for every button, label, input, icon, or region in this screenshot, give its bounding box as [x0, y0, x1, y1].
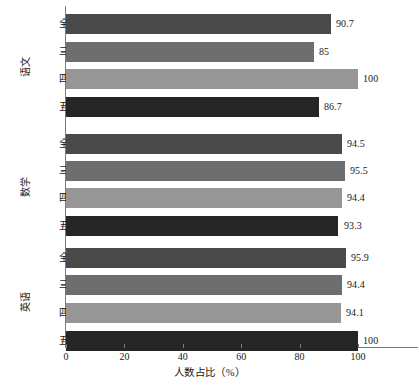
bar-row: 五年级 93.3 — [0, 216, 419, 236]
bar-row: 三年级 94.4 — [0, 275, 419, 295]
bar-row: 四年级 94.4 — [0, 188, 419, 208]
bar-value-label: 94.4 — [347, 280, 365, 290]
bar-yingyu-grade4 — [66, 303, 341, 323]
bar-row: 三年级 95.5 — [0, 161, 419, 181]
bar-row: 五年级 100 — [0, 331, 419, 351]
group-axis-label-shuxue: 数学 — [12, 178, 40, 188]
bar-yuwen-grade3 — [66, 42, 314, 62]
bar-chart: 全区 90.7 三年级 85 四年级 100 五年级 86.7 语文 — [0, 0, 419, 390]
x-tick-label: 20 — [119, 352, 129, 362]
bar-group-shuxue: 全区 94.5 三年级 95.5 四年级 94.4 五年级 93.3 数学 — [0, 128, 419, 240]
x-tick-label: 80 — [295, 352, 305, 362]
x-tick-label: 40 — [178, 352, 188, 362]
bar-shuxue-quanqu — [66, 134, 342, 154]
x-tick-mark — [66, 344, 67, 348]
bar-row: 全区 94.5 — [0, 134, 419, 154]
bar-value-label: 86.7 — [324, 102, 342, 112]
bar-value-label: 100 — [363, 336, 378, 346]
x-tick-mark — [124, 344, 125, 348]
group-axis-label-text: 数学 — [21, 169, 31, 197]
bar-value-label: 100 — [363, 74, 378, 84]
bar-shuxue-grade4 — [66, 188, 342, 208]
x-tick-label: 0 — [64, 352, 69, 362]
x-axis-title: 人数占比（%） — [0, 368, 419, 379]
bar-group-yuwen: 全区 90.7 三年级 85 四年级 100 五年级 86.7 语文 — [0, 6, 419, 122]
group-axis-label-yingyu: 英语 — [12, 293, 40, 303]
bar-yuwen-grade4 — [66, 69, 358, 89]
bar-yuwen-grade5 — [66, 97, 319, 117]
bar-shuxue-grade5 — [66, 216, 338, 236]
x-tick-mark — [241, 344, 242, 348]
bar-row: 三年级 85 — [0, 42, 419, 62]
bar-row: 四年级 94.1 — [0, 303, 419, 323]
bar-yingyu-grade5 — [66, 331, 358, 351]
bar-yuwen-quanqu — [66, 14, 331, 34]
bar-yingyu-quanqu — [66, 248, 346, 268]
bar-value-label: 94.4 — [347, 193, 365, 203]
bar-value-label: 94.1 — [346, 308, 364, 318]
x-tick-label: 60 — [236, 352, 246, 362]
x-tick-mark — [183, 344, 184, 348]
bar-row: 四年级 100 — [0, 69, 419, 89]
bar-value-label: 95.5 — [350, 166, 368, 176]
bar-row: 五年级 86.7 — [0, 97, 419, 117]
bar-group-yingyu: 全区 95.9 三年级 94.4 四年级 94.1 五年级 100 英语 — [0, 243, 419, 347]
x-tick-mark — [358, 344, 359, 348]
group-axis-label-text: 英语 — [21, 284, 31, 312]
x-tick-mark — [300, 344, 301, 348]
group-axis-label-text: 语文 — [21, 49, 31, 77]
group-axis-label-yuwen: 语文 — [12, 58, 40, 68]
bar-value-label: 93.3 — [344, 221, 362, 231]
bar-value-label: 95.9 — [351, 253, 369, 263]
bar-value-label: 85 — [319, 47, 329, 57]
bar-shuxue-grade3 — [66, 161, 345, 181]
bar-value-label: 94.5 — [347, 139, 365, 149]
bar-value-label: 90.7 — [336, 19, 354, 29]
bar-yingyu-grade3 — [66, 275, 342, 295]
bar-row: 全区 95.9 — [0, 248, 419, 268]
bar-row: 全区 90.7 — [0, 14, 419, 34]
x-tick-label: 100 — [351, 352, 366, 362]
